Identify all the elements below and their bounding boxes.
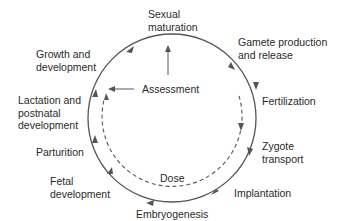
stage-embryogenesis: Embryogenesis xyxy=(136,208,208,221)
dose-label: Dose xyxy=(160,172,185,185)
stage-gamete-production: Gamete production and release xyxy=(238,36,327,61)
stage-fetal-development: Fetal development xyxy=(50,175,110,200)
stage-growth: Growth and development xyxy=(36,48,96,73)
stage-implantation: Implantation xyxy=(234,187,291,200)
stage-sexual-maturation: Sexual maturation xyxy=(148,8,198,33)
stage-fertilization: Fertilization xyxy=(262,95,316,108)
assessment-label: Assessment xyxy=(142,83,199,96)
stage-zygote-transport: Zygote transport xyxy=(262,140,303,165)
stage-lactation: Lactation and postnatal development xyxy=(18,94,81,132)
stage-parturition: Parturition xyxy=(36,146,84,159)
